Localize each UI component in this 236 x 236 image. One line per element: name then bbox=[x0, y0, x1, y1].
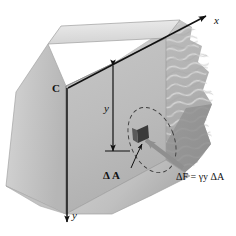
hydrostatic-force-diagram: x y C y Δ A ΔF = γy ΔA bbox=[0, 0, 236, 236]
wall-left-face bbox=[6, 44, 66, 214]
origin-label-c: C bbox=[52, 82, 60, 94]
x-axis-label: x bbox=[213, 14, 219, 26]
figure-container: x y C y Δ A ΔF = γy ΔA bbox=[0, 0, 236, 236]
dam-wall bbox=[6, 20, 190, 214]
depth-dimension-label: y bbox=[103, 102, 109, 114]
delta-area-label: Δ A bbox=[103, 169, 120, 181]
y-axis-label: y bbox=[71, 209, 77, 221]
delta-force-equation: ΔF = γy ΔA bbox=[176, 171, 225, 182]
